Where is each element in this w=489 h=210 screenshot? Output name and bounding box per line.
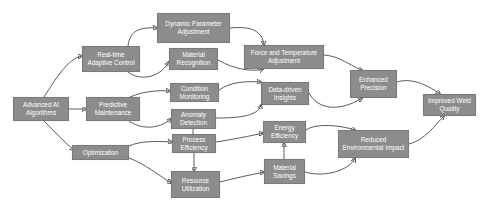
edge-ms-rei	[305, 158, 355, 174]
edges-layer	[0, 0, 489, 210]
edge-ai-rac	[44, 56, 82, 97]
node-label: Material Recognition	[172, 51, 215, 66]
edge-cm-ddi	[219, 82, 261, 90]
node-optimization: Optimization	[72, 145, 129, 160]
node-label: Resource Utilization	[174, 177, 217, 192]
edge-rac-dpa	[128, 28, 157, 46]
node-data-driven-insights: Data-driven Insights	[261, 82, 309, 105]
node-label: Enhanced Precision	[353, 76, 394, 91]
node-real-time-adaptive-control: Real-time Adaptive Control	[82, 46, 140, 72]
node-resource-utilization: Resource Utilization	[171, 171, 220, 198]
node-label: Anomaly Detection	[174, 111, 213, 126]
edge-opt-ru	[129, 158, 171, 183]
node-material-savings: Material Savings	[264, 159, 305, 184]
node-label: Condition Monitoring	[173, 85, 216, 100]
node-label: Material Savings	[267, 164, 302, 179]
edge-fta-ep	[324, 55, 362, 70]
edge-opt-pe	[129, 141, 172, 146]
edge-ru-ms	[220, 172, 264, 182]
node-label: Predictive Maintenance	[89, 101, 137, 116]
node-label: Data-driven Insights	[264, 86, 306, 101]
node-dynamic-parameter-adjustment: Dynamic Parameter Adjustment	[157, 13, 230, 43]
node-predictive-maintenance: Predictive Maintenance	[86, 97, 140, 121]
flowchart-diagram: Advanced AI Algorithms Real-time Adaptiv…	[0, 0, 489, 210]
node-force-and-temperature-adjustment: Force and Temperature Adjustment	[244, 45, 324, 69]
edge-ai-opt	[44, 121, 74, 150]
node-improved-weld-quality: Improved Weld Quality	[423, 94, 476, 116]
node-label: Optimization	[83, 149, 119, 157]
node-label: Force and Temperature Adjustment	[247, 49, 321, 64]
node-label: Dynamic Parameter Adjustment	[160, 20, 227, 35]
node-label: Advanced AI Algorithms	[16, 101, 66, 116]
node-reduced-environmental-impact: Reduced Environmental Impact	[338, 130, 409, 158]
edge-ep-iwq	[397, 81, 440, 94]
node-label: Energy Efficiency	[266, 124, 303, 139]
node-process-efficiency: Process Efficiency	[172, 134, 216, 153]
edge-dpa-fta	[230, 28, 264, 45]
edge-ad-ddi	[216, 105, 261, 118]
node-material-recognition: Material Recognition	[169, 48, 218, 70]
edge-pe-ee	[216, 133, 263, 142]
node-advanced-ai-algorithms: Advanced AI Algorithms	[13, 97, 69, 121]
node-anomaly-detection: Anomaly Detection	[171, 109, 216, 129]
node-enhanced-precision: Enhanced Precision	[350, 70, 397, 98]
node-label: Reduced Environmental Impact	[341, 136, 406, 151]
node-label: Process Efficiency	[175, 136, 213, 151]
node-energy-efficiency: Energy Efficiency	[263, 121, 306, 143]
node-label: Real-time Adaptive Control	[85, 51, 137, 66]
node-condition-monitoring: Condition Monitoring	[170, 83, 219, 102]
edge-rei-iwq	[409, 116, 444, 144]
node-label: Improved Weld Quality	[426, 97, 473, 112]
